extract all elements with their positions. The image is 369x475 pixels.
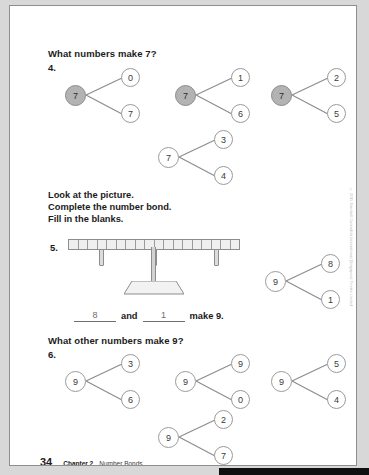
beam-tick	[107, 240, 117, 249]
bond-whole: 9	[158, 427, 179, 448]
bond-part-top: 3	[214, 130, 233, 149]
balance-scale	[68, 239, 240, 297]
question-5-number: 5.	[50, 242, 58, 253]
bond-part-bottom: 0	[231, 390, 250, 409]
section-name: Number Bonds	[99, 460, 142, 466]
bond-whole: 7	[271, 85, 292, 106]
bond-whole: 9	[271, 371, 292, 392]
bond-part-top: 2	[214, 410, 233, 429]
worksheet-page: What numbers make 7? 4. 7 0 7 7 1 6 7 2 …	[9, 5, 357, 466]
bond-part-top: 3	[121, 354, 140, 373]
page-footer: 34 Chapter 2 Number Bonds	[40, 456, 143, 466]
beam-tick	[221, 240, 231, 249]
bond-whole: 7	[65, 85, 86, 106]
beam-tick	[136, 240, 146, 249]
instruction-line-1: Look at the picture.	[48, 190, 134, 202]
bond-part-top: 8	[321, 254, 340, 273]
number-bond: 9 3 6	[65, 354, 151, 410]
copyright-notice: © 2015 Marshall Cavendish International …	[343, 188, 353, 306]
beam-tick	[79, 240, 89, 249]
bond-part-top: 0	[121, 68, 140, 87]
bottom-corner-bar	[219, 468, 369, 475]
bond-part-top: 2	[327, 68, 346, 87]
bond-part-bottom: 5	[327, 104, 346, 123]
beam-tick	[231, 240, 240, 249]
bond-part-bottom: 4	[214, 166, 233, 185]
number-bond: 7 2 5	[271, 68, 357, 124]
beam-tick	[183, 240, 193, 249]
scale-base	[124, 281, 184, 295]
beam-tick	[174, 240, 184, 249]
bond-part-bottom: 7	[121, 104, 140, 123]
question-4-number: 4.	[48, 62, 56, 73]
bond-part-bottom: 6	[231, 104, 250, 123]
blank-answer-2[interactable]: 1	[143, 310, 185, 322]
number-bond: 9 8 1	[265, 254, 351, 310]
beam-tick	[164, 240, 174, 249]
bond-part-bottom: 1	[321, 290, 340, 309]
number-bond: 9 5 4	[271, 354, 357, 410]
number-bond: 7 3 4	[158, 130, 244, 186]
bond-whole: 9	[65, 371, 86, 392]
number-bond: 9 2 7	[158, 410, 244, 466]
scale-post	[151, 247, 156, 283]
beam-tick	[88, 240, 98, 249]
bond-part-top: 5	[327, 354, 346, 373]
beam-tick	[98, 240, 108, 249]
instruction-line-2: Complete the number bond.	[48, 202, 171, 214]
bond-whole: 7	[175, 85, 196, 106]
beam-tick	[202, 240, 212, 249]
beam-tick	[212, 240, 222, 249]
sentence-tail: make 9.	[185, 311, 229, 322]
number-bond: 9 9 0	[175, 354, 261, 410]
bond-whole: 7	[158, 147, 179, 168]
bond-whole: 9	[265, 271, 286, 292]
page-number: 34	[40, 456, 52, 466]
instruction-line-3: Fill in the blanks.	[48, 214, 123, 226]
number-bond: 7 1 6	[175, 68, 261, 124]
bond-whole: 9	[175, 371, 196, 392]
blank-answer-1[interactable]: 8	[74, 310, 116, 322]
bond-part-bottom: 6	[121, 390, 140, 409]
beam-tick	[117, 240, 127, 249]
number-bond: 7 0 7	[65, 68, 151, 124]
question-4-heading: What numbers make 7?	[48, 48, 157, 59]
bond-part-bottom: 4	[327, 390, 346, 409]
question-6-heading: What other numbers make 9?	[48, 335, 184, 346]
bond-part-bottom: 7	[214, 446, 233, 465]
beam-tick	[126, 240, 136, 249]
bond-part-top: 9	[231, 354, 250, 373]
scale-peg	[99, 249, 104, 266]
scale-peg	[214, 249, 219, 266]
beam-tick	[193, 240, 203, 249]
bond-part-top: 1	[231, 68, 250, 87]
chapter-label: Chapter 2	[63, 460, 93, 466]
question-6-number: 6.	[48, 349, 56, 360]
fill-in-the-blank-sentence: 8 and 1 make 9.	[74, 306, 274, 322]
sentence-word-and: and	[116, 311, 143, 322]
beam-tick	[69, 240, 79, 249]
